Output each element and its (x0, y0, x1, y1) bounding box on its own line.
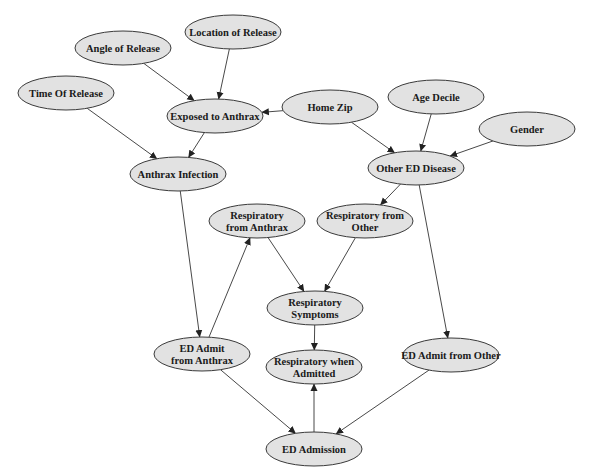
edge-homezip-to-otherdisease (351, 122, 394, 153)
node-infection: Anthrax Infection (130, 157, 226, 191)
node-respanthrax: Respiratoryfrom Anthrax (209, 204, 305, 238)
edge-agedecile-to-otherdisease (421, 114, 431, 151)
node-label: ED Admit from Other (401, 350, 501, 361)
node-label: Angle of Release (86, 43, 160, 54)
node-gender: Gender (479, 112, 575, 146)
arrow-icon (450, 141, 493, 156)
node-label: Gender (510, 124, 544, 135)
node-label: ED Admission (282, 444, 346, 455)
edge-exposed-to-infection (189, 133, 205, 158)
edge-time-to-infection (87, 108, 157, 158)
node-label: Location of Release (189, 27, 277, 38)
edge-otherdisease-to-respother (380, 184, 400, 205)
node-time: Time Of Release (18, 76, 114, 110)
edge-homezip-to-exposed (262, 111, 283, 113)
node-label: ED Admit (179, 343, 225, 354)
node-angle: Angle of Release (75, 31, 171, 65)
node-otherdisease: Other ED Disease (368, 151, 464, 185)
node-agedecile: Age Decile (388, 80, 484, 114)
arrow-icon (421, 114, 431, 151)
node-label: from Anthrax (171, 355, 234, 366)
edge-location-to-exposed (219, 49, 230, 99)
edge-edadmitanthrax-to-respanthrax (209, 238, 250, 337)
arrow-icon (419, 185, 448, 338)
edge-angle-to-exposed (144, 63, 195, 100)
arrow-icon (380, 184, 400, 205)
arrow-icon (336, 370, 429, 434)
node-label: Age Decile (412, 92, 460, 103)
node-respadmitted: Respiratory whenAdmitted (266, 350, 362, 384)
arrow-icon (351, 122, 394, 153)
arrow-icon (262, 111, 283, 113)
node-edadmitother: ED Admit from Other (401, 338, 501, 372)
arrow-icon (87, 108, 157, 158)
node-label: Anthrax Infection (138, 169, 219, 180)
arrow-icon (144, 63, 195, 100)
node-respother: Respiratory fromOther (317, 204, 413, 238)
edge-edadmitother-to-edadmission (336, 370, 429, 434)
arrow-icon (268, 238, 304, 292)
arrow-icon (180, 191, 199, 337)
node-respsymptoms: RespiratorySymptoms (267, 291, 363, 325)
node-label: Admitted (293, 368, 336, 379)
edge-respanthrax-to-respsymptoms (268, 238, 304, 292)
edge-otherdisease-to-edadmitother (419, 185, 448, 338)
node-edadmission: ED Admission (266, 432, 362, 466)
node-label: Time Of Release (29, 88, 103, 99)
node-label: Respiratory (288, 297, 342, 308)
arrow-icon (209, 238, 250, 337)
arrow-icon (219, 49, 230, 99)
node-location: Location of Release (185, 15, 281, 49)
node-label: Home Zip (307, 102, 352, 113)
node-label: Other ED Disease (376, 163, 456, 174)
arrow-icon (189, 133, 205, 158)
bayesian-network-diagram: Location of ReleaseAngle of ReleaseTime … (0, 0, 591, 476)
edge-gender-to-otherdisease (450, 141, 493, 156)
node-edadmitanthrax: ED Admitfrom Anthrax (154, 337, 250, 371)
arrow-icon (325, 238, 356, 292)
node-label: Exposed to Anthrax (170, 111, 260, 122)
node-label: Respiratory from (326, 210, 404, 221)
node-label: Symptoms (291, 309, 338, 320)
nodes-layer: Location of ReleaseAngle of ReleaseTime … (18, 15, 575, 466)
node-exposed: Exposed to Anthrax (167, 99, 263, 133)
node-label: Respiratory when (274, 356, 354, 367)
node-label: Other (352, 222, 379, 233)
node-homezip: Home Zip (282, 90, 378, 124)
edge-respother-to-respsymptoms (325, 238, 356, 292)
edge-infection-to-edadmitanthrax (180, 191, 199, 337)
node-label: Respiratory (230, 210, 284, 221)
node-label: from Anthrax (226, 222, 289, 233)
